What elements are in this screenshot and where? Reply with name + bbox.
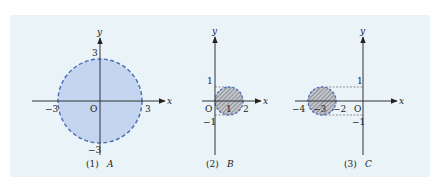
tick-a-y-pos: 3 (92, 48, 98, 58)
tick-c-y-pos: 1 (357, 76, 363, 86)
diagram-b: x y O 1 −1 1 2 (2) B (202, 26, 268, 169)
tick-c-y-neg: −1 (352, 117, 365, 127)
x-label-b: x (263, 96, 268, 106)
diagram-a: x y O 3 −3 −3 3 (1) A (32, 27, 172, 169)
origin-b: O (205, 104, 212, 114)
tick-c-x-c: −2 (333, 104, 346, 114)
x-label-c: x (399, 96, 404, 106)
tick-b-y-pos: 1 (207, 76, 213, 86)
set-diagrams: x y O 3 −3 −3 3 (1) A x y O 1 −1 1 2 (2)… (0, 0, 438, 188)
caption-a-num: (1) (86, 159, 99, 169)
y-label-c: y (359, 26, 366, 36)
tick-b-y-neg: −1 (203, 117, 216, 127)
tick-a-x-neg: −3 (45, 104, 59, 114)
diagram-c: x y O 1 −1 −4 −3 −2 (3) C (292, 26, 404, 169)
tick-a-y-neg: −3 (88, 145, 102, 155)
tick-c-x-b: −3 (313, 104, 327, 114)
tick-c-x-a: −4 (292, 104, 306, 114)
caption-c-num: (3) (344, 159, 357, 169)
y-label-a: y (96, 27, 103, 37)
origin-a: O (90, 104, 97, 114)
tick-b-x1: 1 (226, 104, 232, 114)
origin-c: O (354, 104, 361, 114)
caption-a-set: A (106, 159, 114, 169)
x-label-a: x (167, 96, 172, 106)
caption-b-num: (2) (206, 159, 219, 169)
tick-a-x-pos: 3 (145, 104, 151, 114)
tick-b-x2: 2 (243, 104, 249, 114)
y-label-b: y (211, 26, 218, 36)
caption-c-set: C (365, 159, 372, 169)
caption-b-set: B (226, 159, 234, 169)
